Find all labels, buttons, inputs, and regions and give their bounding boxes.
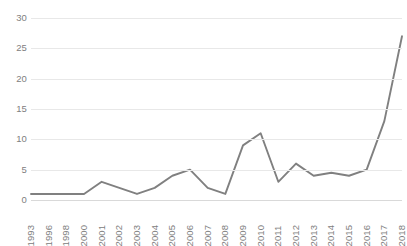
x-tick-label: 2013 — [308, 224, 318, 246]
y-tick-label: 10 — [3, 134, 27, 144]
gridline-y-25 — [31, 48, 402, 49]
y-tick-label: 15 — [3, 104, 27, 114]
x-tick-label: 1993 — [26, 224, 36, 246]
x-tick-label: 1998 — [61, 224, 71, 246]
gridline-y-30 — [31, 18, 402, 19]
x-tick-label: 2004 — [149, 224, 159, 246]
y-tick-label: 20 — [3, 74, 27, 84]
x-tick-label: 2018 — [397, 224, 407, 246]
x-tick-label: 2002 — [114, 224, 124, 246]
gridline-y-10 — [31, 139, 402, 140]
plot-area — [31, 18, 402, 200]
x-tick-label: 2011 — [273, 225, 283, 246]
x-tick-label: 2006 — [185, 224, 195, 246]
gridline-y-20 — [31, 79, 402, 80]
x-tick-label: 2014 — [326, 224, 336, 246]
y-tick-label: 5 — [3, 165, 27, 175]
x-tick-label: 2016 — [361, 224, 371, 246]
gridline-y-15 — [31, 109, 402, 110]
x-tick-label: 2012 — [291, 224, 301, 246]
x-axis: 1993199619982000200120022003200420052006… — [31, 201, 402, 246]
x-tick-label: 2003 — [132, 224, 142, 246]
x-tick-label: 2000 — [79, 224, 89, 246]
x-tick-label: 2005 — [167, 224, 177, 246]
x-tick-label: 2007 — [202, 224, 212, 246]
y-tick-label: 30 — [3, 13, 27, 23]
y-tick-label: 25 — [3, 43, 27, 53]
x-tick-label: 2015 — [344, 224, 354, 246]
gridline-y-5 — [31, 170, 402, 171]
x-tick-label: 1996 — [43, 224, 53, 246]
line-chart: 051015202530 199319961998200020012002200… — [0, 0, 407, 246]
x-tick-label: 2010 — [255, 224, 265, 246]
y-tick-label: 0 — [3, 195, 27, 205]
x-tick-label: 2001 — [96, 224, 106, 246]
x-tick-label: 2008 — [220, 224, 230, 246]
x-tick-label: 2009 — [238, 224, 248, 246]
x-tick-label: 2017 — [379, 224, 389, 246]
y-axis: 051015202530 — [0, 0, 27, 246]
